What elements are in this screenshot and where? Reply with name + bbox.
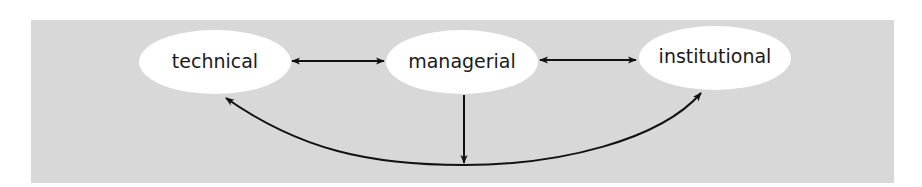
diagram-canvas: technical managerial institutional: [0, 0, 922, 187]
node-technical: technical: [139, 30, 291, 94]
node-technical-label: technical: [172, 50, 258, 72]
node-institutional-label: institutional: [659, 45, 772, 67]
node-institutional: institutional: [639, 26, 791, 90]
node-managerial: managerial: [386, 30, 538, 94]
node-managerial-label: managerial: [408, 50, 516, 72]
